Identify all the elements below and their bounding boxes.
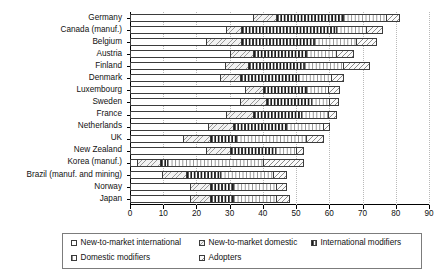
plot-area: [130, 12, 429, 205]
bar-segment: [233, 195, 277, 203]
bar-segment: [298, 74, 332, 82]
bar-segment: [130, 111, 227, 119]
legend-swatch-icon: [71, 240, 77, 246]
x-tick-label: 0: [118, 210, 142, 218]
bar-segment: [190, 195, 211, 203]
bar-segment: [130, 86, 246, 94]
bar-row[interactable]: [130, 111, 337, 119]
bar-row[interactable]: [130, 86, 340, 94]
category-label: Finland: [95, 62, 122, 70]
bar-segment: [130, 62, 226, 70]
category-label: Denmark: [89, 74, 122, 82]
x-tick-label: 70: [351, 210, 375, 218]
bar-row[interactable]: [130, 147, 304, 155]
bar-row[interactable]: [130, 26, 383, 34]
bar-segment: [233, 123, 287, 131]
bar-row[interactable]: [130, 183, 287, 191]
bar-row[interactable]: [130, 171, 287, 179]
category-label: Brazil (manuf. and mining): [26, 171, 122, 179]
bar-segment: [248, 62, 305, 70]
bar-segment: [253, 111, 302, 119]
chart-legend: New-to-market internationalNew-to-market…: [62, 233, 422, 269]
bar-segment: [225, 62, 249, 70]
category-axis: GermanyCanada (manuf.)BelgiumAustriaFinl…: [0, 12, 127, 205]
bar-row[interactable]: [130, 50, 354, 58]
bar-row[interactable]: [130, 135, 324, 143]
bar-segment: [230, 147, 276, 155]
bar-segment: [286, 123, 324, 131]
category-label: Korea (manuf.): [67, 158, 122, 166]
bar-segment: [186, 171, 220, 179]
legend-item[interactable]: International modifiers: [311, 238, 401, 247]
category-label: Netherlands: [78, 122, 122, 130]
bar-segment: [328, 111, 337, 119]
bar-segment: [276, 14, 343, 22]
legend-item[interactable]: New-to-market domestic: [199, 238, 297, 247]
bar-segment: [306, 86, 329, 94]
bar-segment: [366, 26, 384, 34]
bar-row[interactable]: [130, 98, 339, 106]
bar-segment: [329, 98, 338, 106]
bar-row[interactable]: [130, 123, 330, 131]
bar-segment: [167, 159, 264, 167]
bar-segment: [263, 86, 307, 94]
bar-segment: [220, 74, 241, 82]
bar-segment: [226, 111, 254, 119]
bar-row[interactable]: [130, 62, 370, 70]
x-tick-label: 50: [284, 210, 308, 218]
bar-row[interactable]: [130, 74, 344, 82]
bar-segment: [162, 171, 188, 179]
legend-item[interactable]: Domestic modifiers: [71, 253, 150, 262]
legend-swatch-icon: [199, 240, 205, 246]
bar-segment: [130, 183, 191, 191]
category-label: Norway: [94, 183, 122, 191]
bar-segment: [328, 86, 341, 94]
bar-segment: [314, 38, 357, 46]
bar-segment: [130, 74, 221, 82]
x-tick-label: 60: [317, 210, 341, 218]
bar-segment: [306, 135, 324, 143]
legend-label: Domestic modifiers: [81, 253, 151, 262]
bar-segment: [210, 183, 234, 191]
bar-segment: [311, 98, 330, 106]
bar-segment: [130, 195, 191, 203]
category-label: Austria: [97, 50, 122, 58]
bar-segment: [276, 183, 287, 191]
bar-segment: [210, 135, 238, 143]
legend-swatch-icon: [311, 240, 317, 246]
bar-segment: [266, 98, 312, 106]
bar-segment: [190, 183, 211, 191]
bar-segment: [130, 14, 254, 22]
legend-item[interactable]: Adopters: [199, 253, 241, 262]
bar-segment: [130, 171, 163, 179]
bar-segment: [356, 38, 377, 46]
bar-row[interactable]: [130, 195, 290, 203]
legend-row-1: New-to-market internationalNew-to-market…: [63, 238, 421, 252]
legend-label: New-to-market domestic: [209, 238, 298, 247]
bar-segment: [206, 38, 242, 46]
bar-segment: [130, 50, 231, 58]
x-tick-label: 40: [251, 210, 275, 218]
x-axis: 0102030405060708090: [130, 205, 429, 221]
bar-segment: [304, 62, 343, 70]
bar-segment: [130, 26, 227, 34]
bar-row[interactable]: [130, 159, 304, 167]
bar-segment: [230, 50, 254, 58]
bar-segment: [206, 147, 230, 155]
bar-segment: [301, 111, 329, 119]
gridline: [396, 12, 397, 205]
bar-segment: [130, 135, 184, 143]
bar-row[interactable]: [130, 14, 400, 22]
bar-row[interactable]: [130, 38, 377, 46]
bar-segment: [183, 135, 211, 143]
bar-segment: [336, 50, 354, 58]
bar-segment: [236, 135, 307, 143]
x-tick-label: 10: [151, 210, 175, 218]
bar-segment: [137, 159, 161, 167]
bar-segment: [208, 123, 234, 131]
legend-item[interactable]: New-to-market international: [71, 238, 181, 247]
bar-segment: [331, 74, 344, 82]
bar-segment: [233, 183, 277, 191]
category-label: Canada (manuf.): [61, 26, 122, 34]
